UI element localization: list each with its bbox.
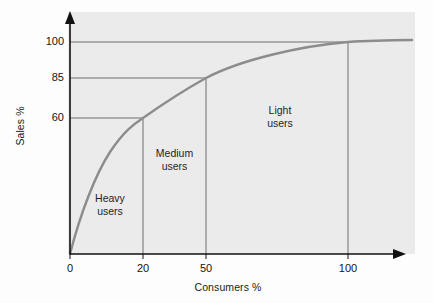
x-tick-label-0: 0 [58, 262, 82, 274]
x-tick-label-20: 20 [131, 262, 155, 274]
heavy-users-line2: users [97, 205, 123, 217]
light-users-line1: Light [269, 104, 292, 116]
medium-users-line2: users [162, 160, 188, 172]
y-axis-title-wrapper: Sales % [10, 120, 30, 140]
chart-figure: 100 85 60 0 20 50 100 Sales % Consumers … [0, 0, 433, 303]
x-axis-title: Consumers % [183, 281, 273, 293]
light-users-annotation: Light users [248, 104, 312, 130]
y-axis-title: Sales % [14, 94, 26, 158]
medium-users-annotation: Medium users [143, 147, 206, 173]
x-tick-label-50: 50 [194, 262, 218, 274]
medium-users-line1: Medium [156, 147, 193, 159]
y-tick-label-100: 100 [36, 35, 64, 47]
heavy-users-annotation: Heavy users [78, 192, 142, 218]
chart-svg [0, 0, 433, 303]
heavy-users-line1: Heavy [95, 192, 125, 204]
y-tick-label-85: 85 [36, 71, 64, 83]
y-tick-label-60: 60 [36, 111, 64, 123]
light-users-line2: users [267, 117, 293, 129]
x-tick-label-100: 100 [333, 262, 363, 274]
